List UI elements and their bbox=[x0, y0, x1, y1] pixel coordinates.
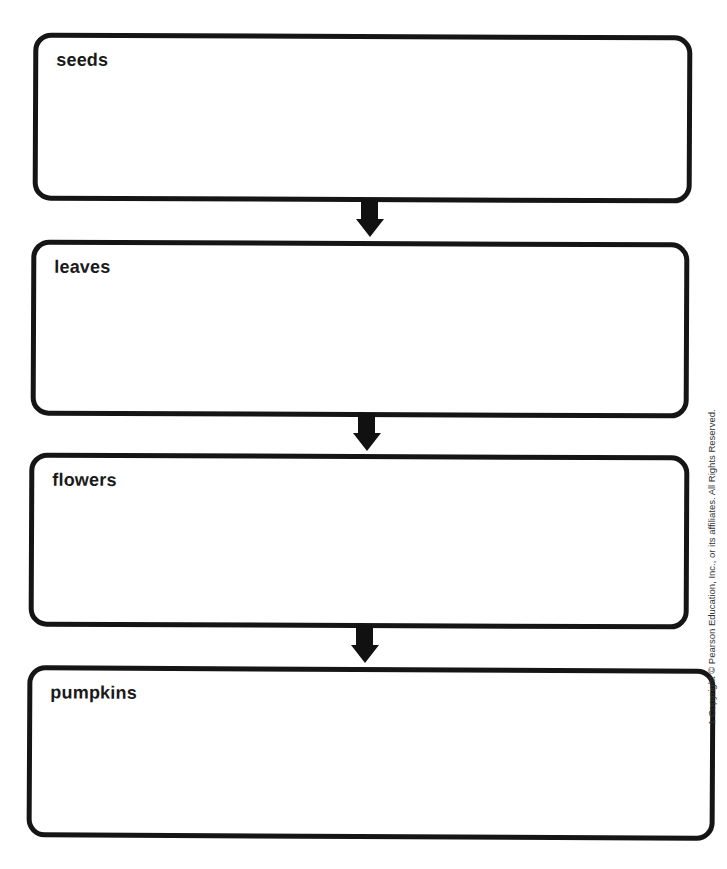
box-label: pumpkins bbox=[50, 682, 137, 703]
flow-box-seeds: seeds bbox=[33, 33, 693, 204]
copyright-notice: 1 Copyright © Pearson Education, Inc., o… bbox=[706, 409, 717, 725]
flow-box-pumpkins: pumpkins bbox=[27, 665, 716, 841]
box-label: seeds bbox=[56, 50, 108, 71]
flow-box-leaves: leaves bbox=[31, 240, 690, 419]
flow-box-flowers: flowers bbox=[29, 453, 690, 630]
down-arrow-icon bbox=[352, 413, 382, 453]
box-label: flowers bbox=[52, 470, 117, 491]
down-arrow-icon bbox=[350, 625, 380, 665]
box-label: leaves bbox=[54, 257, 110, 278]
cut-off-title bbox=[0, 0, 727, 6]
down-arrow-icon bbox=[355, 199, 385, 239]
